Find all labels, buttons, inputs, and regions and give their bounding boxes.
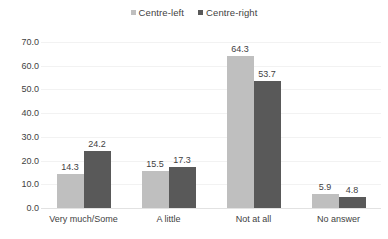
- bar-centre-right[interactable]: 17.3: [169, 42, 196, 208]
- bar-rect[interactable]: [339, 197, 366, 208]
- bar-rect[interactable]: [312, 194, 339, 208]
- bar-group: 64.353.7: [211, 42, 296, 208]
- y-axis-tick-label: 0.0: [5, 203, 39, 213]
- bar-centre-left[interactable]: 64.3: [227, 42, 254, 208]
- bar-centre-left[interactable]: 14.3: [57, 42, 84, 208]
- bar-rect[interactable]: [169, 167, 196, 208]
- y-axis-tick-label: 50.0: [5, 84, 39, 94]
- x-axis-category-label: Very much/Some: [41, 214, 126, 224]
- y-axis-tick-label: 40.0: [5, 108, 39, 118]
- bar-rect[interactable]: [227, 56, 254, 208]
- bar-centre-left[interactable]: 5.9: [312, 42, 339, 208]
- y-axis-tick-label: 30.0: [5, 132, 39, 142]
- bar-value-label: 17.3: [173, 155, 191, 165]
- bar-rect[interactable]: [254, 81, 281, 208]
- bar-value-label: 64.3: [231, 44, 249, 54]
- y-axis-tick-label: 70.0: [5, 37, 39, 47]
- legend-label-centre-right: Centre-right: [206, 7, 257, 18]
- bar-group: 14.324.2: [41, 42, 126, 208]
- bar-value-label: 4.8: [346, 185, 359, 195]
- bar-rect[interactable]: [84, 151, 111, 208]
- bar-value-label: 14.3: [61, 162, 79, 172]
- bar-group: 5.94.8: [296, 42, 381, 208]
- bar-chart: Centre-left Centre-right 70.060.050.040.…: [0, 0, 388, 239]
- bar-rect[interactable]: [142, 171, 169, 208]
- bar-value-label: 24.2: [88, 139, 106, 149]
- x-axis-category-label: No answer: [296, 214, 381, 224]
- y-axis-tick-label: 10.0: [5, 179, 39, 189]
- legend-item-centre-right: Centre-right: [198, 7, 257, 18]
- bar-centre-right[interactable]: 4.8: [339, 42, 366, 208]
- bar-groups: 14.324.215.517.364.353.75.94.8: [41, 42, 381, 208]
- bar-rect[interactable]: [57, 174, 84, 208]
- y-axis-tick-label: 60.0: [5, 61, 39, 71]
- x-axis-category-label: A little: [126, 214, 211, 224]
- x-axis: Very much/SomeA littleNot at allNo answe…: [41, 214, 381, 224]
- gridline: [41, 208, 381, 209]
- y-axis-tick-label: 20.0: [5, 156, 39, 166]
- bar-value-label: 5.9: [319, 182, 332, 192]
- bar-value-label: 53.7: [258, 69, 276, 79]
- legend-label-centre-left: Centre-left: [139, 7, 184, 18]
- legend-item-centre-left: Centre-left: [131, 7, 184, 18]
- bar-value-label: 15.5: [146, 159, 164, 169]
- bar-centre-right[interactable]: 53.7: [254, 42, 281, 208]
- chart-legend: Centre-left Centre-right: [0, 7, 388, 18]
- bar-centre-right[interactable]: 24.2: [84, 42, 111, 208]
- bar-group: 15.517.3: [126, 42, 211, 208]
- legend-swatch-centre-right: [198, 10, 203, 15]
- legend-swatch-centre-left: [131, 10, 136, 15]
- x-axis-category-label: Not at all: [211, 214, 296, 224]
- bar-centre-left[interactable]: 15.5: [142, 42, 169, 208]
